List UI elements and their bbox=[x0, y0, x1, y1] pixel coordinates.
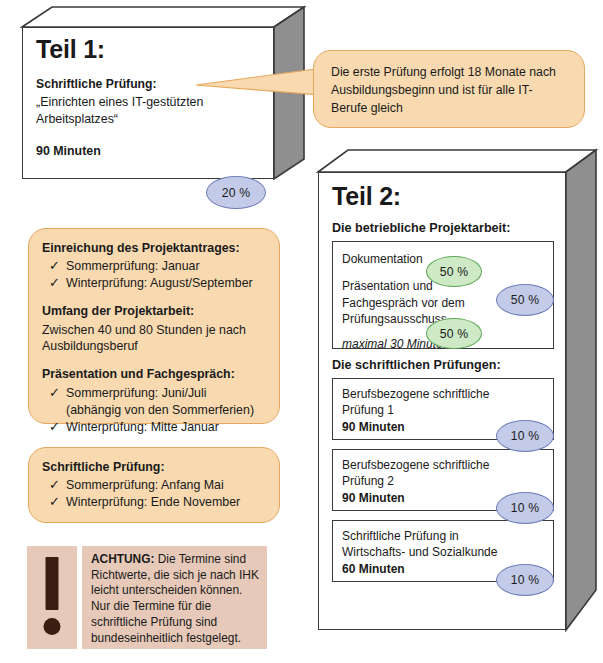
written-2-line-2: Prüfung 2 bbox=[342, 473, 544, 489]
warning-text: ACHTUNG: Die Termine sind Richtwerte, di… bbox=[91, 552, 259, 646]
check-icon: ✓ bbox=[42, 477, 66, 494]
teil1-topic: „Einrichten eines IT-gestützten Arbeitsp… bbox=[36, 94, 272, 128]
project-doc-weight-badge: 50 % bbox=[426, 256, 482, 287]
project-total-weight-badge: 50 % bbox=[496, 284, 554, 316]
teil2-project-heading: Die betriebliche Projektarbeit: bbox=[332, 221, 554, 235]
group-umfang-line-2: Ausbildungsberuf bbox=[42, 338, 266, 355]
group-praesentation-check-2: ✓ Winterprüfung: Mitte Januar bbox=[42, 419, 266, 436]
warning-block: ACHTUNG: Die Termine sind Richtwerte, di… bbox=[27, 546, 267, 649]
group-umfang: Umfang der Projektarbeit: Zwischen 40 un… bbox=[42, 303, 266, 355]
teil1-container: Teil 1: Schriftliche Prüfung: „Einrichte… bbox=[22, 27, 274, 179]
check-icon: ✓ bbox=[42, 494, 66, 511]
check-icon: ✓ bbox=[42, 385, 66, 402]
check-icon: ✓ bbox=[42, 419, 66, 436]
teil2-written-heading: Die schriftlichen Prüfungen: bbox=[332, 358, 554, 372]
teil1-title: Teil 1: bbox=[36, 37, 272, 62]
warning-label: ACHTUNG: bbox=[91, 552, 154, 566]
group-umfang-heading: Umfang der Projektarbeit: bbox=[42, 303, 266, 319]
written-dates-check-1: ✓ Sommerprüfung: Anfang Mai bbox=[42, 477, 266, 494]
group-einreichung-check-1: ✓ Sommerprüfung: Januar bbox=[42, 258, 266, 275]
teil2-title: Teil 2: bbox=[332, 184, 554, 209]
teil2-container: Teil 2: Die betriebliche Projektarbeit: … bbox=[318, 172, 566, 630]
exclamation-bar bbox=[46, 557, 59, 610]
written-2-line-1: Berufsbezogene schriftliche bbox=[342, 457, 544, 473]
written-3-weight-badge: 10 % bbox=[496, 564, 554, 596]
written-1-line-1: Berufsbezogene schriftliche bbox=[342, 386, 544, 402]
written-1-weight-badge: 10 % bbox=[496, 420, 554, 452]
exclamation-dot bbox=[44, 618, 61, 635]
group-einreichung: Einreichung des Projektantrages: ✓ Somme… bbox=[42, 240, 266, 292]
check-icon: ✓ bbox=[42, 275, 66, 292]
group-praesentation: Präsentation und Fachgespräch: ✓ Sommerp… bbox=[42, 366, 266, 435]
teil2-content: Teil 2: Die betriebliche Projektarbeit: … bbox=[332, 184, 554, 591]
first-exam-callout: Die erste Prüfung erfolgt 18 Monate nach… bbox=[313, 50, 585, 128]
group-praesentation-subnote: (abhängig von den Sommerferien) bbox=[42, 402, 266, 419]
written-exam-dates-callout: Schriftliche Prüfung: ✓ Sommerprüfung: A… bbox=[28, 447, 280, 523]
written-dates-check-2: ✓ Winterprüfung: Ende November bbox=[42, 494, 266, 511]
written-1-line-2: Prüfung 1 bbox=[342, 402, 544, 418]
first-exam-callout-text: Die erste Prüfung erfolgt 18 Monate nach… bbox=[331, 64, 567, 117]
group-einreichung-heading: Einreichung des Projektantrages: bbox=[42, 240, 266, 256]
teil1-weight-badge: 20 % bbox=[206, 176, 266, 209]
group-praesentation-heading: Präsentation und Fachgespräch: bbox=[42, 366, 266, 382]
written-3-line-2: Wirtschafts- und Sozialkunde bbox=[342, 544, 544, 560]
warning-text-box: ACHTUNG: Die Termine sind Richtwerte, di… bbox=[82, 546, 267, 649]
project-dates-callout: Einreichung des Projektantrages: ✓ Somme… bbox=[28, 228, 280, 424]
teil1-subtitle: Schriftliche Prüfung: bbox=[36, 76, 272, 92]
project-pres-weight-badge: 50 % bbox=[426, 318, 482, 349]
exclamation-mark-icon bbox=[27, 546, 77, 649]
written-2-weight-badge: 10 % bbox=[496, 492, 554, 524]
check-icon: ✓ bbox=[42, 258, 66, 275]
group-umfang-line-1: Zwischen 40 und 80 Stunden je nach bbox=[42, 322, 266, 339]
written-3-line-1: Schriftliche Prüfung in bbox=[342, 528, 544, 544]
written-dates-heading: Schriftliche Prüfung: bbox=[42, 459, 266, 475]
teil1-duration: 90 Minuten bbox=[36, 144, 272, 158]
group-praesentation-check-1: ✓ Sommerprüfung: Juni/Juli bbox=[42, 385, 266, 402]
teil1-content: Teil 1: Schriftliche Prüfung: „Einrichte… bbox=[36, 37, 272, 158]
group-einreichung-check-2: ✓ Winterprüfung: August/September bbox=[42, 275, 266, 292]
